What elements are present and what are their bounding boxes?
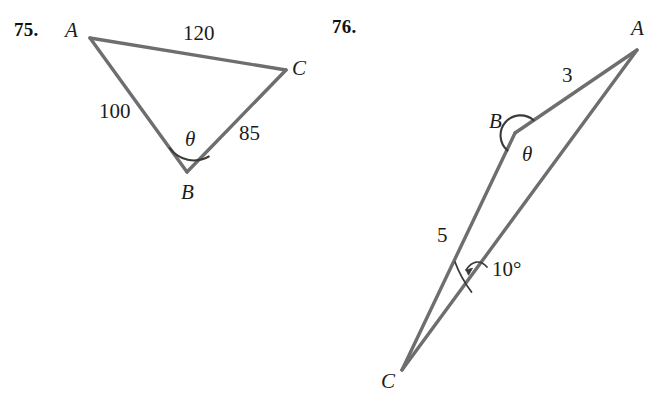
figure-76-vertex-label-A: A — [631, 18, 644, 39]
fig76-side-BC-line — [402, 133, 515, 370]
figure-76-side-label-AB: 3 — [562, 65, 573, 86]
figure-76-vertex-label-B: B — [489, 111, 502, 132]
figure-76-angle-label-theta: θ — [522, 144, 532, 165]
fig76-side-CA-line — [402, 50, 637, 370]
figure-76-vertex-label-C: C — [381, 371, 395, 392]
figure-76-number: 76. — [332, 17, 356, 36]
figure-canvas — [0, 0, 663, 402]
figure-75-side-label-BC: 85 — [239, 123, 260, 144]
figure-75-side-label-AC: 120 — [183, 23, 215, 44]
figure-75-side-label-AB: 100 — [99, 101, 131, 122]
figure-75-number: 75. — [14, 20, 38, 39]
fig75-side-BC-line — [187, 70, 286, 172]
figure-76-triangle — [402, 50, 637, 370]
figure-75-vertex-label-A: A — [65, 20, 78, 41]
figure-76-angle-label-10deg: 10° — [492, 259, 521, 280]
figure-75-vertex-label-C: C — [292, 58, 306, 79]
figure-75-vertex-label-B: B — [181, 182, 194, 203]
figure-76-side-label-BC: 5 — [437, 225, 448, 246]
figure-75-angle-label-theta: θ — [185, 129, 195, 150]
